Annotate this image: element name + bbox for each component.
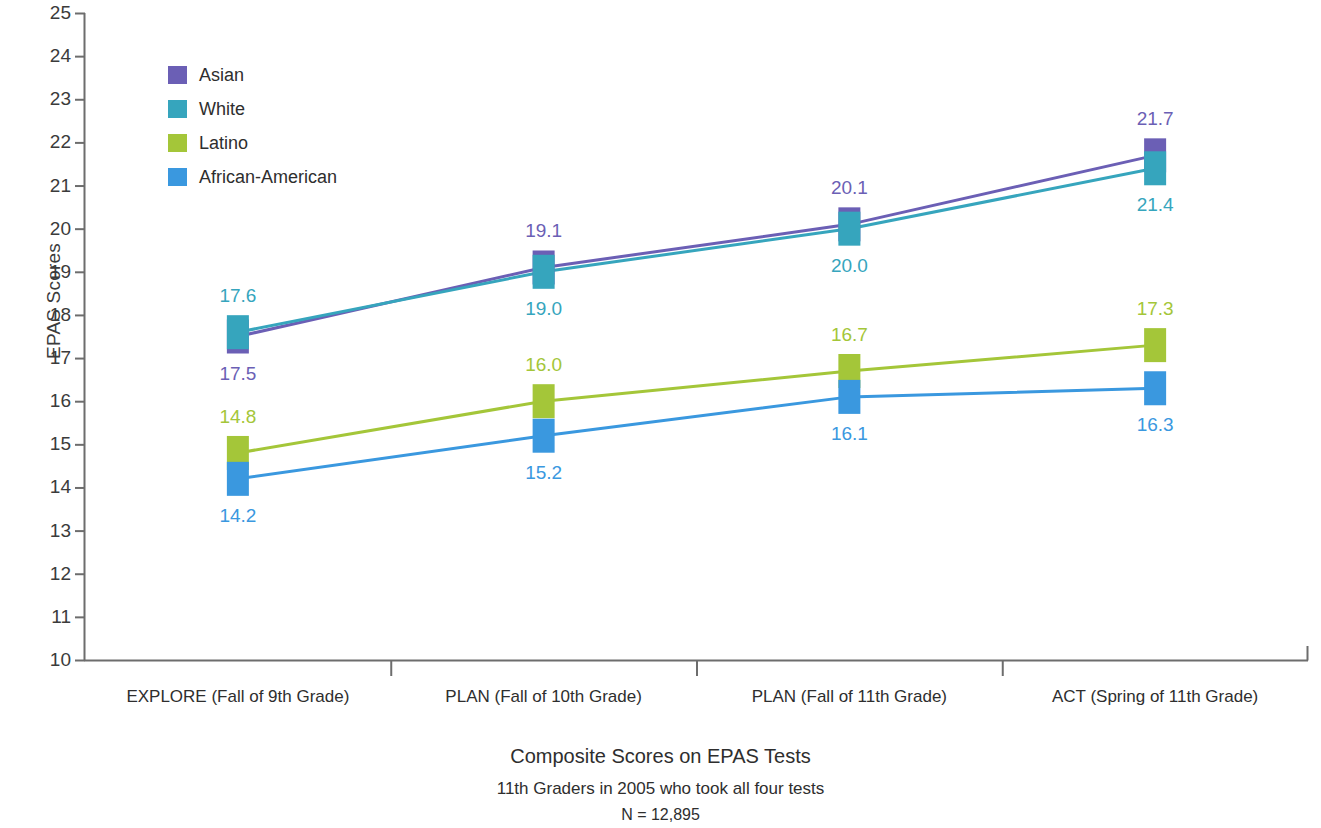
data-point-value-label: 19.1 — [514, 221, 574, 240]
data-point-value-label: 16.7 — [819, 325, 879, 344]
y-tick-label: 10 — [37, 650, 71, 669]
data-point-value-label: 21.4 — [1125, 195, 1185, 214]
legend-swatch-icon — [168, 134, 187, 152]
data-point-marker[interactable] — [533, 419, 555, 453]
data-point-marker[interactable] — [227, 315, 249, 349]
x-tick-label: PLAN (Fall of 11th Grade) — [697, 688, 1003, 705]
data-point-value-label: 19.0 — [514, 299, 574, 318]
chart-legend: AsianWhiteLatinoAfrican-American — [168, 58, 337, 194]
data-point-value-label: 17.5 — [208, 364, 268, 383]
data-point-marker[interactable] — [838, 380, 860, 414]
chart-container: EPAS Scores 2524232221201918171615141312… — [0, 0, 1321, 828]
data-point-marker[interactable] — [1144, 328, 1166, 362]
series-line-white — [238, 168, 1155, 332]
data-point-value-label: 14.8 — [208, 407, 268, 426]
x-tick-label: EXPLORE (Fall of 9th Grade) — [85, 688, 391, 705]
legend-item-asian[interactable]: Asian — [168, 58, 337, 92]
legend-swatch-icon — [168, 66, 187, 84]
data-point-value-label: 16.0 — [514, 355, 574, 374]
y-tick-label: 13 — [37, 521, 71, 540]
data-point-value-label: 14.2 — [208, 506, 268, 525]
data-point-value-label: 16.3 — [1125, 415, 1185, 434]
y-tick-label: 16 — [37, 391, 71, 410]
legend-item-african-american[interactable]: African-American — [168, 160, 337, 194]
y-tick-label: 17 — [37, 348, 71, 367]
y-tick-label: 21 — [37, 176, 71, 195]
x-tick-marks — [391, 660, 1003, 676]
data-point-value-label: 20.0 — [819, 256, 879, 275]
legend-item-label: Latino — [199, 134, 248, 152]
y-tick-label: 20 — [37, 219, 71, 238]
series-markers — [227, 138, 1166, 496]
legend-item-white[interactable]: White — [168, 92, 337, 126]
data-point-value-label: 21.7 — [1125, 109, 1185, 128]
y-tick-label: 12 — [37, 564, 71, 583]
series-line-african-american — [238, 388, 1155, 479]
y-tick-label: 15 — [37, 434, 71, 453]
series-line-latino — [238, 345, 1155, 453]
legend-swatch-icon — [168, 168, 187, 186]
series-lines — [238, 155, 1155, 479]
legend-swatch-icon — [168, 100, 187, 118]
chart-sample-size: N = 12,895 — [0, 806, 1321, 824]
x-tick-label: ACT (Spring of 11th Grade) — [1002, 688, 1308, 705]
data-point-marker[interactable] — [838, 212, 860, 246]
y-tick-label: 14 — [37, 477, 71, 496]
data-point-marker[interactable] — [1144, 151, 1166, 185]
chart-subtitle: 11th Graders in 2005 who took all four t… — [0, 779, 1321, 799]
data-point-value-label: 17.3 — [1125, 299, 1185, 318]
legend-item-latino[interactable]: Latino — [168, 126, 337, 160]
chart-title: Composite Scores on EPAS Tests — [0, 745, 1321, 768]
data-point-marker[interactable] — [1144, 371, 1166, 405]
legend-item-label: African-American — [199, 168, 337, 186]
data-point-marker[interactable] — [533, 384, 555, 418]
y-tick-label: 23 — [37, 89, 71, 108]
legend-item-label: White — [199, 100, 245, 118]
y-tick-label: 18 — [37, 305, 71, 324]
data-point-value-label: 15.2 — [514, 463, 574, 482]
series-line-asian — [238, 155, 1155, 336]
legend-item-label: Asian — [199, 66, 244, 84]
y-tick-label: 24 — [37, 46, 71, 65]
y-tick-label: 19 — [37, 262, 71, 281]
data-point-value-label: 20.1 — [819, 178, 879, 197]
data-point-value-label: 16.1 — [819, 424, 879, 443]
y-tick-label: 11 — [37, 607, 71, 626]
y-tick-label: 22 — [37, 132, 71, 151]
data-point-marker[interactable] — [533, 255, 555, 289]
data-point-marker[interactable] — [227, 462, 249, 496]
x-tick-label: PLAN (Fall of 10th Grade) — [391, 688, 697, 705]
data-point-value-label: 17.6 — [208, 286, 268, 305]
y-tick-label: 25 — [37, 3, 71, 22]
